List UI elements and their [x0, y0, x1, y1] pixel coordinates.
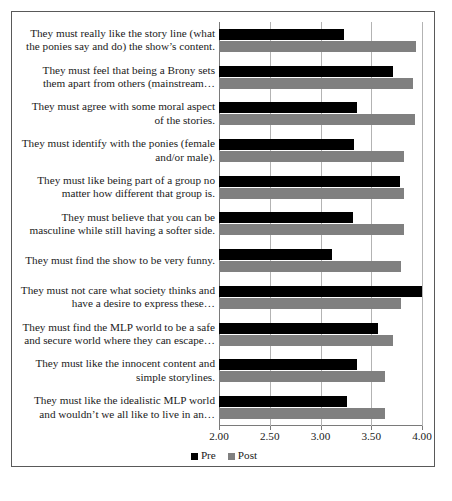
chart-figure-frame: They must really like the story line (wh…: [11, 11, 435, 467]
bar-post: [219, 41, 416, 52]
category-label: They must feel that being a Brony sets t…: [20, 64, 215, 91]
legend-label: Pre: [201, 449, 216, 461]
bar-row: [219, 59, 422, 96]
bar-row: [219, 389, 422, 426]
legend-label: Post: [238, 449, 257, 461]
legend-swatch-pre-icon: [191, 453, 198, 460]
category-label: They must like the idealistic MLP world …: [20, 394, 215, 421]
bar-post: [219, 151, 404, 162]
bar-pre: [219, 249, 332, 260]
category-label: They must really like the story line (wh…: [20, 27, 215, 54]
legend-item-pre: Pre: [191, 449, 216, 461]
bar-row: [219, 316, 422, 353]
bar-pre: [219, 396, 347, 407]
bar-post: [219, 408, 385, 419]
category-label: They must like the innocent content and …: [20, 357, 215, 384]
legend-item-post: Post: [228, 449, 257, 461]
bar-pre: [219, 102, 357, 113]
bar-row: [219, 169, 422, 206]
bar-post: [219, 371, 385, 382]
category-label: They must believe that you can be mascul…: [20, 211, 215, 238]
bar-row: [219, 206, 422, 243]
value-axis-tick-labels: 2.002.503.003.504.00: [219, 430, 434, 446]
bar-row: [219, 95, 422, 132]
bar-post: [219, 261, 401, 272]
bar-pre: [219, 212, 353, 223]
bar-row: [219, 353, 422, 390]
bar-post: [219, 78, 413, 89]
bar-row: [219, 22, 422, 59]
value-axis-tick-label: 3.50: [361, 430, 381, 442]
category-axis-labels: They must really like the story line (wh…: [20, 22, 217, 426]
bar-post: [219, 114, 415, 125]
bar-pre: [219, 176, 400, 187]
category-label: They must like being part of a group no …: [20, 174, 215, 201]
category-label: They must not care what society thinks a…: [20, 284, 215, 311]
value-axis-tick-label: 3.00: [311, 430, 331, 442]
bar-pre: [219, 286, 422, 297]
bar-post: [219, 188, 404, 199]
legend-swatch-post-icon: [228, 453, 235, 460]
value-axis-tick-label: 4.00: [412, 430, 432, 442]
bar-pre: [219, 29, 344, 40]
bar-chart: They must really like the story line (wh…: [12, 12, 436, 468]
category-label: They must identify with the ponies (fema…: [20, 137, 215, 164]
value-axis-tick-label: 2.00: [209, 430, 229, 442]
gridline: [422, 22, 423, 426]
chart-legend: PrePost: [12, 449, 436, 461]
bar-row: [219, 132, 422, 169]
category-label: They must agree with some moral aspect o…: [20, 100, 215, 127]
bar-pre: [219, 139, 354, 150]
bar-post: [219, 298, 401, 309]
bar-row: [219, 242, 422, 279]
bar-pre: [219, 66, 393, 77]
value-axis-tick-label: 2.50: [260, 430, 280, 442]
bar-row: [219, 279, 422, 316]
bar-pre: [219, 359, 357, 370]
bar-rows: [219, 22, 422, 426]
bar-post: [219, 335, 393, 346]
bar-pre: [219, 323, 378, 334]
category-label: They must find the show to be very funny…: [20, 254, 215, 268]
bar-post: [219, 224, 404, 235]
plot-area: [219, 22, 422, 426]
category-label: They must find the MLP world to be a saf…: [20, 321, 215, 348]
